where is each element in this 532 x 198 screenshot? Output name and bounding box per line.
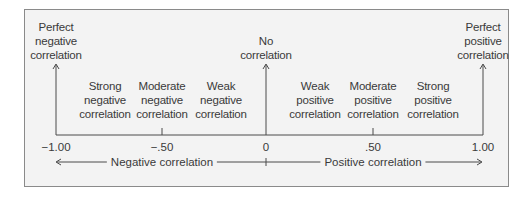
tick-minus-one: −1.00 — [41, 140, 70, 154]
tick-zero: 0 — [263, 140, 269, 154]
label-weak-negative: Weak negative correlation — [195, 79, 247, 121]
label-weak-positive: Weak positive correlation — [289, 79, 341, 121]
label-perfect-positive: Perfect positive correlation — [457, 20, 509, 62]
label-strong-negative: Strong negative correlation — [79, 79, 131, 121]
label-perfect-negative: Perfect negative correlation — [30, 20, 82, 62]
label-moderate-negative: Moderate negative correlation — [136, 79, 188, 121]
label-moderate-positive: Moderate positive correlation — [347, 79, 399, 121]
tick-plus-one: 1.00 — [472, 140, 494, 154]
label-no-correlation: No correlation — [240, 34, 292, 62]
tick-plus-half: .50 — [365, 140, 381, 154]
range-negative-label: Negative correlation — [107, 155, 217, 169]
tick-minus-half: −.50 — [151, 140, 174, 154]
range-positive-label: Positive correlation — [320, 155, 425, 169]
label-strong-positive: Strong positive correlation — [407, 79, 459, 121]
